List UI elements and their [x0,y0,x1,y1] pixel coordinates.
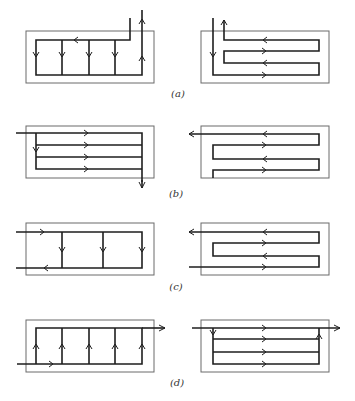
panel-label-c: (c) [169,281,182,292]
panel-b-serpentine [189,126,329,178]
panel-d-parallel [17,320,165,372]
panel-a-serpentine [201,18,329,83]
panel-label-a: (a) [171,88,185,99]
panel-c-parallel [16,223,154,275]
panel-c-serpentine [189,223,329,275]
panel-label-b: (b) [169,188,183,199]
panel-d-serpentine [192,320,340,372]
flow-circuits-diagram [0,0,355,401]
panel-b-parallel [16,126,154,188]
panel-label-d: (d) [170,377,184,388]
panel-a-parallel [26,10,154,83]
